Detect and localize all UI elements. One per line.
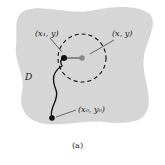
caption: (a) <box>72 141 83 150</box>
point-x0-y0 <box>49 115 55 121</box>
diagram-canvas: (x₁, y) (x, y) (x₀, y₀) D (a) <box>0 0 165 165</box>
point-x-y <box>79 55 85 61</box>
label-x0-y0: (x₀, y₀) <box>78 105 105 114</box>
label-x-y: (x, y) <box>112 29 132 38</box>
region-label: D <box>24 72 32 82</box>
point-x1-y <box>61 55 67 61</box>
label-x1-y: (x₁, y) <box>35 29 59 38</box>
